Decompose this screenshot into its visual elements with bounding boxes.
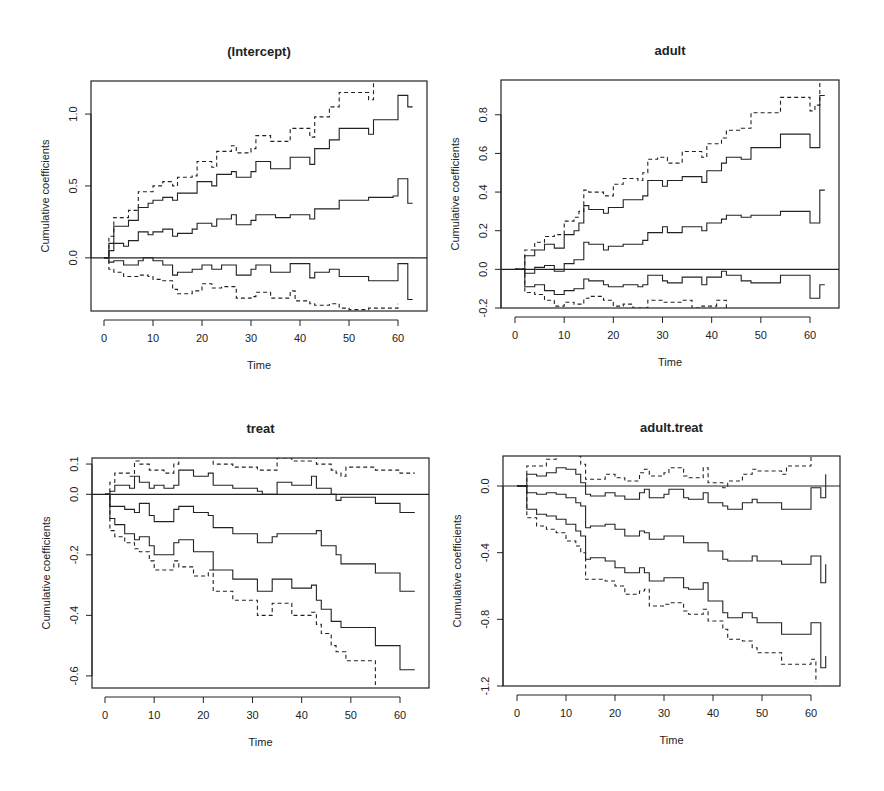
x-tick-label: 60 xyxy=(392,332,404,344)
x-tick-label: 20 xyxy=(609,707,621,719)
figure: (Intercept)0102030405060Time0.00.51.0Cum… xyxy=(0,0,884,791)
pointwise-ci-line xyxy=(515,269,825,298)
estimate-line xyxy=(105,494,415,591)
x-axis-label: Time xyxy=(659,734,683,746)
y-tick-label: 0.6 xyxy=(477,146,489,161)
pointwise-ci-line xyxy=(517,486,826,668)
estimate-line xyxy=(515,190,825,273)
y-axis: -0.6-0.4-0.20.00.1 xyxy=(68,456,92,685)
y-tick-label: 0.4 xyxy=(477,184,489,199)
estimate-line xyxy=(104,179,413,258)
x-axis-label: Time xyxy=(658,356,682,368)
x-tick-label: 60 xyxy=(805,707,817,719)
y-axis-label: Cumulative coefficients xyxy=(40,516,52,629)
x-tick-label: 40 xyxy=(294,332,306,344)
y-tick-label: -0.4 xyxy=(479,543,491,562)
pointwise-ci-line xyxy=(515,96,825,270)
confidence-band-line xyxy=(517,453,811,488)
x-tick-label: 40 xyxy=(706,329,718,341)
confidence-band-line xyxy=(515,76,820,269)
confidence-band-line xyxy=(104,78,374,258)
panel-intercept: (Intercept)0102030405060Time0.00.51.0Cum… xyxy=(39,44,427,371)
x-axis: 0102030405060 xyxy=(102,697,406,721)
x-tick-label: 60 xyxy=(394,709,406,721)
x-tick-label: 30 xyxy=(245,332,257,344)
panel-adult: adult0102030405060Time-0.20.00.20.40.60.… xyxy=(449,43,839,368)
y-tick-label: 1.0 xyxy=(67,106,79,121)
pointwise-ci-line xyxy=(105,470,415,512)
confidence-band-line xyxy=(517,486,816,683)
x-axis: 0102030405060 xyxy=(514,695,817,719)
x-axis-label: Time xyxy=(247,359,271,371)
x-tick-label: 0 xyxy=(101,332,107,344)
y-tick-label: 0.0 xyxy=(477,262,489,277)
y-tick-label: 0.0 xyxy=(67,250,79,265)
x-tick-label: 50 xyxy=(756,707,768,719)
y-tick-label: -0.2 xyxy=(68,545,80,564)
estimate-line xyxy=(517,486,826,583)
x-tick-label: 10 xyxy=(558,329,570,341)
x-tick-label: 30 xyxy=(246,709,258,721)
y-axis-label: Cumulative coefficients xyxy=(39,139,51,252)
x-tick-label: 20 xyxy=(197,709,209,721)
pointwise-ci-line xyxy=(517,468,826,510)
y-axis-label: Cumulative coefficients xyxy=(449,137,461,250)
y-tick-label: 0.1 xyxy=(68,456,80,471)
panel-adult-treat: adult.treat0102030405060Time-1.2-0.8-0.4… xyxy=(451,420,840,746)
y-tick-label: 0.8 xyxy=(477,107,489,122)
x-tick-label: 0 xyxy=(512,329,518,341)
y-axis: -1.2-0.8-0.40.0 xyxy=(479,478,503,695)
x-tick-label: 30 xyxy=(656,329,668,341)
chart-title: treat xyxy=(246,421,275,436)
pointwise-ci-line xyxy=(104,258,413,300)
y-axis-label: Cumulative coefficients xyxy=(451,514,463,627)
y-tick-label: 0.0 xyxy=(68,487,80,502)
x-tick-label: 10 xyxy=(147,332,159,344)
x-tick-label: 60 xyxy=(804,329,816,341)
x-tick-label: 40 xyxy=(707,707,719,719)
confidence-band-line xyxy=(104,258,398,310)
pointwise-ci-line xyxy=(105,494,415,670)
chart-title: adult.treat xyxy=(640,420,704,435)
x-tick-label: 50 xyxy=(343,332,355,344)
pointwise-ci-line xyxy=(104,95,413,257)
x-tick-label: 10 xyxy=(148,709,160,721)
chart-title: (Intercept) xyxy=(227,44,291,59)
x-axis: 0102030405060 xyxy=(512,317,816,341)
x-tick-label: 40 xyxy=(296,709,308,721)
y-tick-label: 0.5 xyxy=(67,178,79,193)
x-axis-label: Time xyxy=(248,736,272,748)
chart-title: adult xyxy=(654,43,686,58)
x-tick-label: 10 xyxy=(560,707,572,719)
x-axis: 0102030405060 xyxy=(101,320,404,344)
y-tick-label: 0.2 xyxy=(477,223,489,238)
y-tick-label: -1.2 xyxy=(479,677,491,696)
x-tick-label: 50 xyxy=(345,709,357,721)
y-tick-label: -0.8 xyxy=(479,610,491,629)
confidence-band-line xyxy=(105,494,375,685)
y-tick-label: 0.0 xyxy=(479,478,491,493)
x-tick-label: 20 xyxy=(607,329,619,341)
y-tick-label: -0.6 xyxy=(68,666,80,685)
y-axis: -0.20.00.20.40.60.8 xyxy=(477,107,501,317)
y-tick-label: -0.2 xyxy=(477,299,489,318)
x-tick-label: 50 xyxy=(755,329,767,341)
x-tick-label: 0 xyxy=(102,709,108,721)
plot-frame xyxy=(503,456,840,686)
y-tick-label: -0.4 xyxy=(68,606,80,625)
panel-treat: treat0102030405060Time-0.6-0.4-0.20.00.1… xyxy=(40,421,429,748)
x-tick-label: 30 xyxy=(658,707,670,719)
x-tick-label: 20 xyxy=(196,332,208,344)
confidence-band-line xyxy=(515,269,726,308)
plot-frame xyxy=(501,80,839,308)
y-axis: 0.00.51.0 xyxy=(67,106,91,265)
x-tick-label: 0 xyxy=(514,707,520,719)
plot-frame xyxy=(91,81,427,311)
